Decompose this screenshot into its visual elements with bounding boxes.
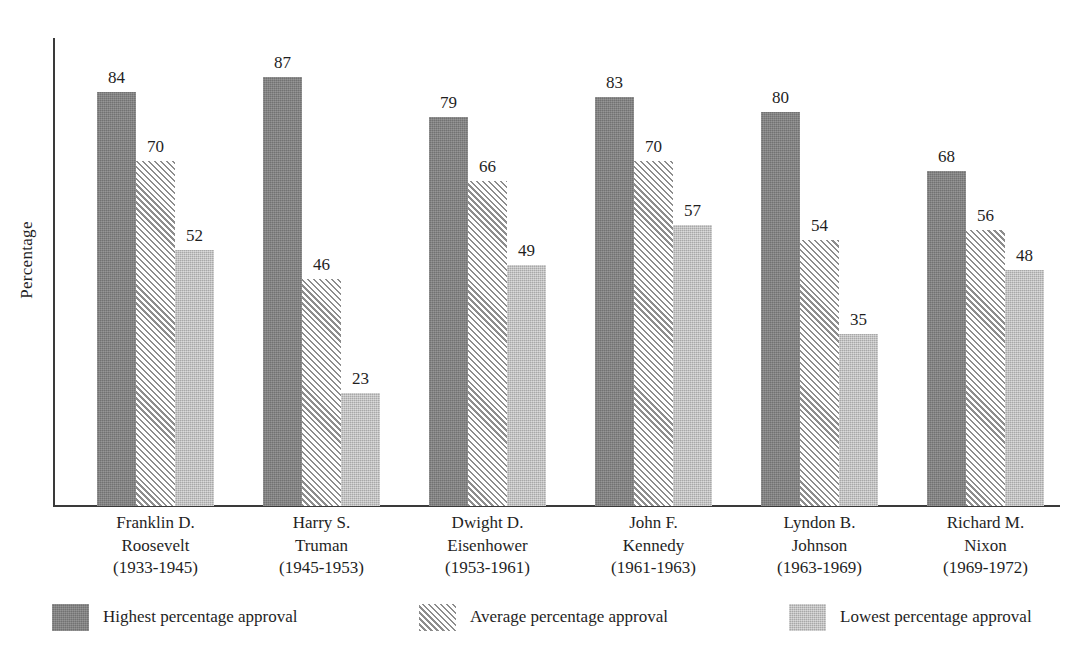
x-axis-tick-label-line: John F.	[564, 512, 744, 535]
x-axis-tick-label: John F.Kennedy(1961-1963)	[564, 512, 744, 580]
x-axis-tick-label-line: Richard M.	[896, 512, 1076, 535]
x-axis-tick-label-line: Harry S.	[232, 512, 412, 535]
x-axis-tick-label-line: (1963-1969)	[730, 557, 910, 580]
bar-value-label: 84	[108, 69, 125, 86]
bar-rect[interactable]	[175, 250, 214, 506]
bar-group: 874623	[263, 38, 380, 506]
x-axis-tick-label: Lyndon B.Johnson(1963-1969)	[730, 512, 910, 580]
bar-value-label: 49	[518, 242, 535, 259]
x-axis-tick-label-line: (1945-1953)	[232, 557, 412, 580]
legend-label: Average percentage approval	[470, 607, 668, 627]
bar-item[interactable]: 35	[839, 334, 878, 506]
x-axis-tick-label: Harry S.Truman(1945-1953)	[232, 512, 412, 580]
bar-item[interactable]: 49	[507, 265, 546, 506]
bar-chart-figure: Percentage 84705287462379664983705780543…	[0, 0, 1082, 648]
bar-group: 847052	[97, 38, 214, 506]
plot-area: 847052874623796649837057805435685648	[55, 38, 1060, 506]
bar-value-label: 56	[977, 207, 994, 224]
x-axis-tick-label-line: Truman	[232, 535, 412, 558]
bar-item[interactable]: 68	[927, 171, 966, 506]
bar-rect[interactable]	[673, 225, 712, 506]
legend-item[interactable]: Highest percentage approval	[52, 602, 297, 632]
bar-item[interactable]: 70	[136, 161, 175, 506]
bar-item[interactable]: 80	[761, 112, 800, 506]
bar-value-label: 48	[1016, 247, 1033, 264]
bar-group: 685648	[927, 38, 1044, 506]
bar-rect[interactable]	[595, 97, 634, 506]
legend-item[interactable]: Average percentage approval	[419, 602, 668, 632]
bar-rect[interactable]	[263, 77, 302, 506]
y-axis-title: Percentage	[17, 200, 37, 320]
bar-item[interactable]: 66	[468, 181, 507, 506]
bar-item[interactable]: 23	[341, 393, 380, 506]
bar-value-label: 87	[274, 54, 291, 71]
bar-item[interactable]: 52	[175, 250, 214, 506]
x-axis-tick-label-line: Roosevelt	[66, 535, 246, 558]
bar-value-label: 68	[938, 148, 955, 165]
bar-group: 805435	[761, 38, 878, 506]
bar-value-label: 54	[811, 217, 828, 234]
x-axis-tick-label: Richard M.Nixon(1969-1972)	[896, 512, 1076, 580]
bar-item[interactable]: 84	[97, 92, 136, 506]
x-axis-tick-label-line: Kennedy	[564, 535, 744, 558]
bar-rect[interactable]	[800, 240, 839, 506]
x-axis-tick-label-line: (1953-1961)	[398, 557, 578, 580]
x-axis-tick-label-line: (1933-1945)	[66, 557, 246, 580]
bar-value-label: 52	[186, 227, 203, 244]
x-axis-tick-label-line: Franklin D.	[66, 512, 246, 535]
chart-legend: Highest percentage approvalAverage perce…	[0, 602, 1082, 642]
bar-rect[interactable]	[1005, 270, 1044, 506]
bar-item[interactable]: 70	[634, 161, 673, 506]
bar-group: 796649	[429, 38, 546, 506]
bar-item[interactable]: 46	[302, 279, 341, 506]
bar-rect[interactable]	[839, 334, 878, 506]
legend-label: Highest percentage approval	[103, 607, 297, 627]
bar-value-label: 79	[440, 94, 457, 111]
bar-item[interactable]: 79	[429, 117, 468, 506]
x-axis-tick-label-line: Johnson	[730, 535, 910, 558]
bar-value-label: 23	[352, 370, 369, 387]
bar-rect[interactable]	[341, 393, 380, 506]
bar-value-label: 83	[606, 74, 623, 91]
bar-value-label: 70	[147, 138, 164, 155]
legend-swatch	[789, 604, 826, 631]
legend-label: Lowest percentage approval	[840, 607, 1032, 627]
bar-rect[interactable]	[927, 171, 966, 506]
bar-rect[interactable]	[634, 161, 673, 506]
x-axis-tick-label: Franklin D.Roosevelt(1933-1945)	[66, 512, 246, 580]
bar-rect[interactable]	[429, 117, 468, 506]
bar-rect[interactable]	[507, 265, 546, 506]
bar-rect[interactable]	[302, 279, 341, 506]
legend-item[interactable]: Lowest percentage approval	[789, 602, 1032, 632]
x-axis-tick-label-line: Eisenhower	[398, 535, 578, 558]
bar-value-label: 57	[684, 202, 701, 219]
bar-value-label: 66	[479, 158, 496, 175]
x-axis-tick-label-line: (1961-1963)	[564, 557, 744, 580]
bar-value-label: 35	[850, 311, 867, 328]
bar-rect[interactable]	[468, 181, 507, 506]
x-axis-tick-label-line: Lyndon B.	[730, 512, 910, 535]
bar-item[interactable]: 48	[1005, 270, 1044, 506]
bar-item[interactable]: 57	[673, 225, 712, 506]
bar-group: 837057	[595, 38, 712, 506]
legend-swatch	[419, 604, 456, 631]
x-axis-tick-label-line: Dwight D.	[398, 512, 578, 535]
bar-rect[interactable]	[97, 92, 136, 506]
bar-rect[interactable]	[966, 230, 1005, 506]
legend-swatch	[52, 604, 89, 631]
bar-item[interactable]: 56	[966, 230, 1005, 506]
bar-value-label: 70	[645, 138, 662, 155]
bar-rect[interactable]	[761, 112, 800, 506]
bar-value-label: 80	[772, 89, 789, 106]
x-axis-tick-label-line: (1969-1972)	[896, 557, 1076, 580]
x-axis-tick-label-line: Nixon	[896, 535, 1076, 558]
bar-item[interactable]: 87	[263, 77, 302, 506]
x-axis-tick-label: Dwight D.Eisenhower(1953-1961)	[398, 512, 578, 580]
bar-item[interactable]: 83	[595, 97, 634, 506]
bar-rect[interactable]	[136, 161, 175, 506]
bar-value-label: 46	[313, 256, 330, 273]
bar-item[interactable]: 54	[800, 240, 839, 506]
